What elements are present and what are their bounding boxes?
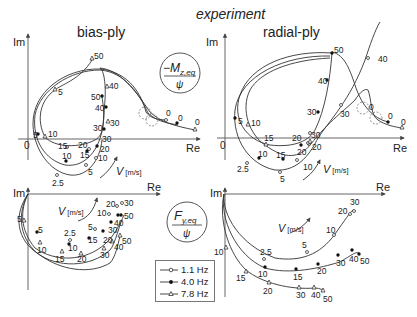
- svg-text:30: 30: [350, 197, 360, 207]
- svg-text:40: 40: [349, 254, 359, 264]
- svg-text:10: 10: [37, 245, 47, 255]
- svg-text:5: 5: [17, 214, 22, 224]
- svg-text:0: 0: [195, 117, 200, 127]
- svg-text:40: 40: [311, 290, 321, 300]
- svg-text:20: 20: [78, 140, 88, 150]
- svg-text:10: 10: [326, 225, 336, 235]
- v-label: V[m/s]: [116, 165, 142, 177]
- svg-text:2.5: 2.5: [237, 164, 249, 174]
- svg-text:15: 15: [293, 272, 303, 282]
- panel-top-left: bias-ply Im Re 0 50405 504030 305: [13, 24, 200, 188]
- filled-circle-marker-icon: [160, 278, 178, 286]
- header-title: experiment: [196, 6, 266, 22]
- quantity-badge-fy: Fy,eq ψ: [167, 202, 207, 242]
- svg-text:30: 30: [307, 107, 317, 117]
- y-axis-label: Im: [210, 187, 222, 199]
- svg-text:50: 50: [91, 92, 101, 102]
- svg-text:30: 30: [340, 109, 350, 119]
- svg-text:40: 40: [378, 54, 388, 64]
- svg-text:15: 15: [58, 141, 68, 151]
- svg-text:40: 40: [95, 103, 105, 113]
- svg-text:10: 10: [68, 243, 78, 253]
- svg-text:10: 10: [251, 118, 261, 128]
- origin-label: 0: [220, 140, 226, 151]
- panel-top-right: radial-ply Im Re 0 504040 30305 1015: [206, 22, 407, 184]
- legend-item: 4.0 Hz: [160, 276, 208, 288]
- curve-1.1hz-tail: [100, 69, 166, 120]
- x-axis-label: Re: [393, 142, 407, 154]
- svg-text:2.5: 2.5: [260, 247, 272, 257]
- y-axis-label: Im: [206, 36, 218, 48]
- svg-text:20: 20: [103, 235, 113, 245]
- svg-text:30: 30: [93, 123, 103, 133]
- y-axis-label: Im: [13, 187, 25, 199]
- svg-text:20: 20: [292, 133, 302, 143]
- svg-text:30: 30: [108, 225, 118, 235]
- svg-text:ψ: ψ: [183, 228, 191, 239]
- svg-text:10: 10: [98, 153, 108, 163]
- svg-text:50: 50: [94, 51, 104, 61]
- svg-text:0: 0: [369, 102, 374, 112]
- svg-text:10: 10: [48, 129, 58, 139]
- svg-text:10: 10: [62, 151, 72, 161]
- svg-text:5: 5: [38, 225, 43, 235]
- svg-text:20: 20: [338, 206, 348, 216]
- svg-text:15: 15: [236, 273, 246, 283]
- quantity-badge-mz: −Mz,eq ψ: [160, 53, 200, 93]
- svg-text:5: 5: [280, 174, 285, 184]
- svg-text:50: 50: [334, 45, 344, 55]
- open-triangle-marker-icon: [160, 290, 178, 298]
- svg-text:30: 30: [336, 258, 346, 268]
- svg-text:30: 30: [110, 118, 120, 128]
- svg-text:20: 20: [312, 142, 322, 152]
- svg-text:20: 20: [77, 254, 87, 264]
- svg-text:ψ: ψ: [176, 79, 184, 90]
- svg-text:10: 10: [303, 162, 313, 172]
- svg-text:40: 40: [114, 242, 124, 252]
- svg-text:20: 20: [297, 147, 307, 157]
- svg-text:15: 15: [264, 133, 274, 143]
- svg-text:2.5: 2.5: [52, 178, 64, 188]
- y-axis-label: Im: [13, 36, 25, 48]
- panel-title-radial: radial-ply: [263, 24, 320, 40]
- svg-text:30: 30: [311, 130, 321, 140]
- svg-text:0: 0: [178, 113, 183, 123]
- v-label: V[m/s]: [323, 163, 349, 175]
- svg-text:40: 40: [318, 76, 328, 86]
- svg-text:5: 5: [33, 130, 38, 140]
- x-axis-label: Re: [376, 181, 390, 193]
- svg-text:30: 30: [124, 198, 134, 208]
- svg-text:15: 15: [80, 150, 90, 160]
- open-circle-marker-icon: [160, 266, 178, 274]
- figure: experiment bias-ply Im Re 0 50405: [0, 0, 417, 317]
- svg-text:20: 20: [263, 286, 273, 296]
- v-label: V[m/s]: [278, 222, 304, 234]
- svg-text:30: 30: [102, 134, 112, 144]
- svg-text:20: 20: [106, 199, 116, 209]
- svg-text:5: 5: [58, 87, 63, 97]
- x-axis-label: Re: [147, 181, 161, 193]
- svg-text:20: 20: [317, 266, 327, 276]
- x-axis-label: Re: [186, 142, 200, 154]
- panel-bottom-left: Im Re 203010 50405 3055 2.51520 501010 4…: [13, 181, 161, 290]
- v-label: V[m/s]: [58, 205, 84, 217]
- legend: 1.1 Hz 4.0 Hz 7.8 Hz: [155, 260, 215, 302]
- svg-text:0: 0: [388, 111, 393, 121]
- svg-text:10: 10: [258, 149, 268, 159]
- svg-text:0: 0: [401, 117, 406, 127]
- svg-text:5: 5: [88, 222, 93, 232]
- svg-text:2.5: 2.5: [64, 228, 76, 238]
- svg-text:15: 15: [88, 235, 98, 245]
- svg-text:5: 5: [238, 116, 243, 126]
- svg-text:0: 0: [166, 108, 171, 118]
- panel-title-bias: bias-ply: [77, 24, 125, 40]
- svg-text:50: 50: [360, 256, 370, 266]
- svg-text:50: 50: [124, 211, 134, 221]
- svg-text:15: 15: [276, 150, 286, 160]
- svg-text:30: 30: [296, 290, 306, 300]
- svg-text:5: 5: [88, 167, 93, 177]
- svg-text:50: 50: [323, 294, 333, 304]
- legend-item: 7.8 Hz: [160, 288, 208, 300]
- svg-text:10: 10: [214, 247, 224, 257]
- svg-text:15: 15: [55, 254, 65, 264]
